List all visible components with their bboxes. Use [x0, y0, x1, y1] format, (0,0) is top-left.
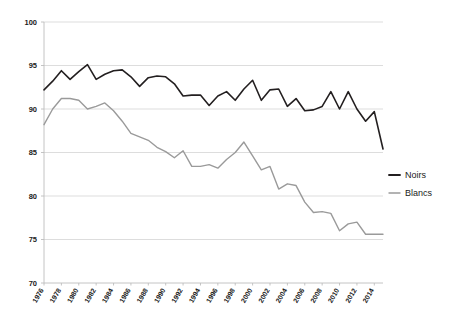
- legend: NoirsBlancs: [389, 170, 433, 198]
- x-tick-label-2006: 2006: [292, 287, 306, 304]
- x-tick-label-2014: 2014: [361, 287, 375, 304]
- y-tick-label-100: 100: [24, 18, 37, 27]
- x-tick-label-1990: 1990: [153, 287, 167, 304]
- y-tick-label-80: 80: [29, 192, 37, 201]
- y-tick-label-95: 95: [29, 61, 37, 70]
- line-chart-figure: 707580859095100 197619781980198219841986…: [0, 0, 449, 327]
- x-tick-label-2012: 2012: [344, 287, 358, 304]
- x-tick-label-1988: 1988: [135, 287, 149, 304]
- x-tick-label-1998: 1998: [222, 287, 236, 304]
- y-tick-label-75: 75: [29, 235, 37, 244]
- x-tick-label-1976: 1976: [31, 287, 45, 304]
- gridlines-group: [44, 22, 383, 240]
- legend-label-blancs: Blancs: [405, 188, 433, 198]
- y-tick-label-85: 85: [29, 148, 37, 157]
- x-tick-label-1986: 1986: [118, 287, 132, 304]
- series-line-blancs: [44, 99, 383, 235]
- x-tick-label-1992: 1992: [170, 287, 184, 304]
- y-tick-label-90: 90: [29, 105, 37, 114]
- x-tick-label-1994: 1994: [187, 287, 201, 304]
- x-tick-label-2010: 2010: [327, 287, 341, 304]
- x-tick-label-2002: 2002: [257, 287, 271, 304]
- x-tick-label-1980: 1980: [66, 287, 80, 304]
- x-tick-label-2004: 2004: [274, 287, 288, 304]
- x-tick-label-1996: 1996: [205, 287, 219, 304]
- x-tick-label-2008: 2008: [309, 287, 323, 304]
- y-axis-tick-labels: 707580859095100: [24, 18, 44, 288]
- data-series-group: [44, 65, 383, 235]
- x-axis-tick-labels: 1976197819801982198419861988199019921994…: [31, 283, 375, 304]
- chart-canvas: 707580859095100 197619781980198219841986…: [0, 0, 449, 327]
- x-tick-label-1982: 1982: [83, 287, 97, 304]
- x-tick-label-1984: 1984: [101, 287, 115, 304]
- x-tick-label-2000: 2000: [240, 287, 254, 304]
- legend-label-noirs: Noirs: [405, 170, 427, 180]
- x-tick-label-1978: 1978: [48, 287, 62, 304]
- y-tick-label-70: 70: [29, 279, 37, 288]
